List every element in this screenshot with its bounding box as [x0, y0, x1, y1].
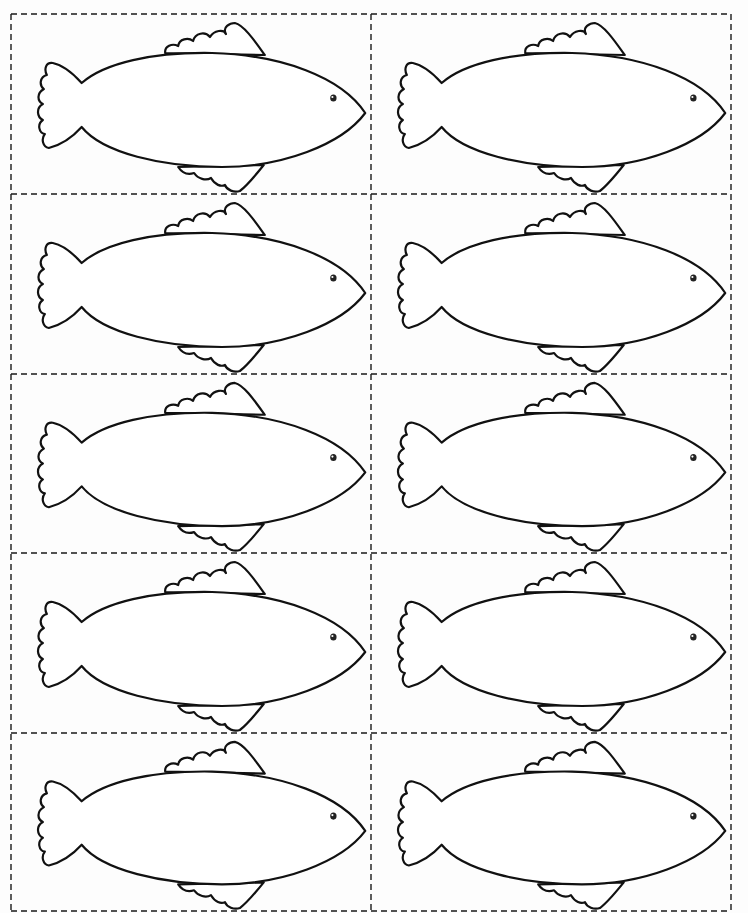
fish-layer — [38, 23, 725, 909]
fish-icon — [398, 23, 725, 192]
fish-cutout-4 — [398, 203, 725, 372]
fish-icon — [38, 23, 365, 192]
fish-icon — [38, 203, 365, 372]
fish-cutout-8 — [398, 562, 725, 731]
fish-icon — [38, 742, 365, 909]
fish-icon — [398, 203, 725, 372]
fish-cutout-6 — [398, 383, 725, 551]
fish-cutout-7 — [38, 562, 365, 731]
fish-cutout-9 — [38, 742, 365, 909]
fish-cutout-10 — [398, 742, 725, 909]
fish-cutout-2 — [398, 23, 725, 192]
fish-icon — [398, 742, 725, 909]
fish-icon — [38, 562, 365, 731]
fish-icon — [398, 383, 725, 551]
fish-cutout-5 — [38, 383, 365, 551]
fish-worksheet — [0, 0, 748, 913]
fish-cutout-3 — [38, 203, 365, 372]
fish-cutout-1 — [38, 23, 365, 192]
fish-icon — [398, 562, 725, 731]
fish-icon — [38, 383, 365, 551]
